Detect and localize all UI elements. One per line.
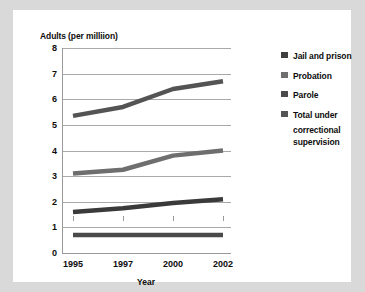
x-tick-mark — [123, 216, 124, 221]
x-tick-mark — [73, 216, 74, 221]
chart-page: Adults (per milliion) 012345678 19951997… — [0, 0, 365, 292]
series-line — [73, 199, 223, 212]
x-axis-label: Year — [62, 277, 230, 287]
legend-label: supervision — [293, 136, 340, 149]
chart-card: Adults (per milliion) 012345678 19951997… — [13, 10, 351, 282]
legend-label: Probation — [293, 70, 332, 83]
x-tick-label: 2002 — [200, 259, 246, 269]
y-tick-label: 4 — [39, 147, 57, 156]
legend-swatch-icon — [281, 72, 288, 78]
x-tick-mark — [173, 216, 174, 221]
x-tick-label: 1995 — [50, 259, 96, 269]
chart-legend: Jail and prisonProbationParoleTotal unde… — [281, 50, 365, 151]
y-tick-label: 3 — [39, 172, 57, 181]
y-tick-label: 7 — [39, 70, 57, 79]
legend-item[interactable]: Jail and prison — [281, 50, 365, 63]
y-tick-label: 6 — [39, 95, 57, 104]
y-tick-label: 5 — [39, 121, 57, 130]
legend-swatch-spacer — [281, 138, 288, 144]
legend-item[interactable]: Total under — [281, 109, 365, 122]
y-axis-tick-labels: 012345678 — [35, 10, 57, 292]
legend-swatch-spacer — [281, 126, 288, 132]
series-lines — [62, 48, 230, 254]
x-tick-mark — [223, 216, 224, 221]
y-tick-label: 2 — [39, 198, 57, 207]
x-tick-label: 1997 — [100, 259, 146, 269]
legend-label: Total under — [293, 109, 338, 122]
legend-swatch-icon — [281, 111, 288, 117]
y-tick-label: 8 — [39, 44, 57, 53]
legend-label: Parole — [293, 89, 318, 102]
series-line — [73, 151, 223, 174]
y-tick-label: 1 — [39, 223, 57, 232]
legend-item[interactable]: Probation — [281, 70, 365, 83]
y-tick-label: 0 — [39, 249, 57, 258]
legend-swatch-icon — [281, 91, 288, 97]
legend-item-continuation: supervision — [281, 136, 365, 149]
series-line — [73, 81, 223, 116]
legend-label: Jail and prison — [293, 50, 352, 63]
legend-item[interactable]: Parole — [281, 89, 365, 102]
x-tick-label: 2000 — [150, 259, 196, 269]
legend-swatch-icon — [281, 52, 288, 58]
